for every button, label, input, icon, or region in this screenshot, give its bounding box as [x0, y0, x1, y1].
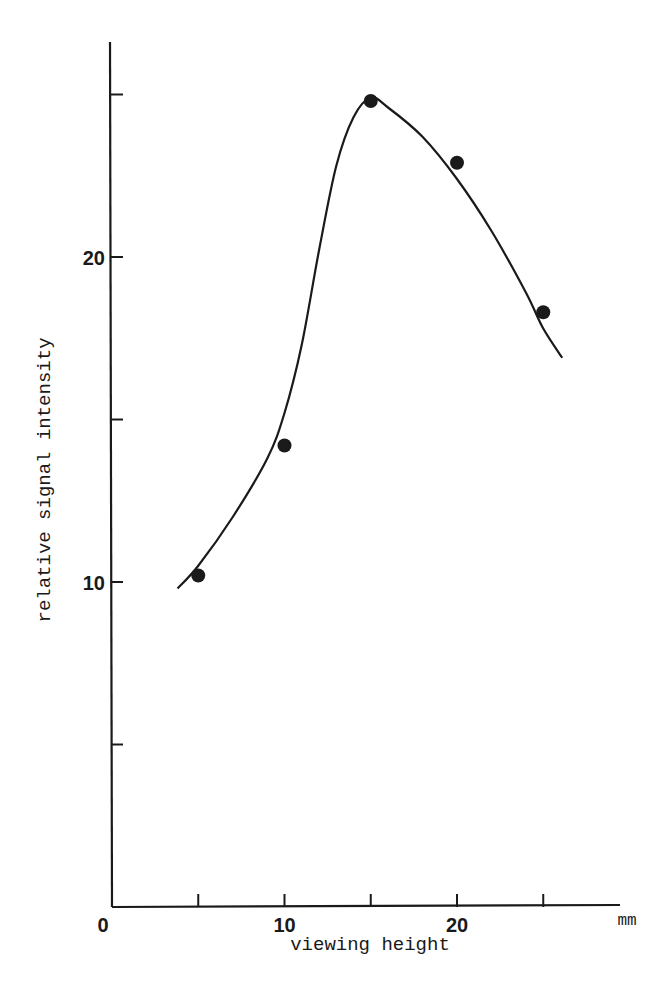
ticks: [111, 95, 543, 908]
x-tick-label: 0: [97, 914, 108, 936]
data-point: [191, 569, 205, 583]
fitted-curve: [178, 97, 563, 588]
data-point: [536, 305, 550, 319]
data-point: [364, 94, 378, 108]
y-tick-label: 10: [83, 572, 105, 594]
x-axis-label: viewing height: [290, 934, 450, 956]
data-points: [191, 94, 550, 583]
y-axis-label: relative signal intensity: [34, 337, 56, 622]
y-axis-line: [110, 42, 112, 907]
data-point: [450, 156, 464, 170]
x-tick-label: 20: [446, 914, 468, 936]
y-tick-label: 20: [83, 247, 105, 269]
data-point: [278, 439, 292, 453]
chart: 010201020 viewing height mm relative sig…: [0, 0, 668, 990]
x-tick-label: 10: [273, 914, 295, 936]
x-axis-unit: mm: [617, 912, 636, 930]
axes: [110, 42, 620, 907]
tick-labels: 010201020: [83, 247, 468, 936]
